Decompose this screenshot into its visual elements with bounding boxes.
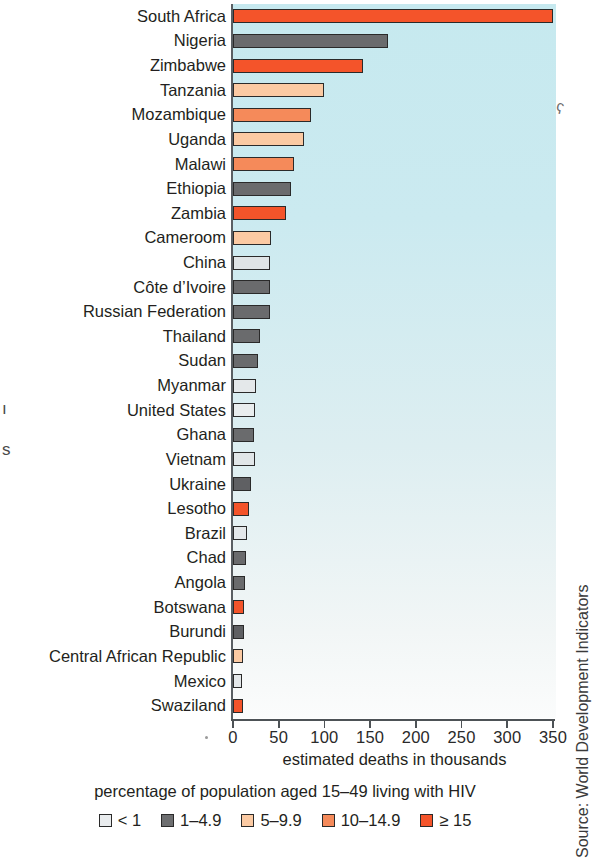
hiv-deaths-bar-chart: 050100150200250300350 South AfricaNigeri…	[0, 0, 616, 862]
bar-row: Malawi	[0, 152, 616, 177]
country-label: Malawi	[0, 156, 226, 173]
legend-item: ≥ 15	[420, 811, 471, 830]
bar	[233, 576, 245, 590]
bar	[233, 502, 249, 516]
x-tick	[324, 721, 326, 728]
legend-swatch	[241, 814, 254, 827]
country-label: Ukraine	[0, 476, 226, 493]
bar-row: Vietnam	[0, 447, 616, 472]
bar-row: Zimbabwe	[0, 53, 616, 78]
x-tick-label: 150	[345, 728, 395, 747]
page-edge-fragment-1: ı	[2, 399, 7, 419]
x-tick	[552, 721, 554, 728]
country-label: Thailand	[0, 328, 226, 345]
bar-row: Burundi	[0, 620, 616, 645]
source-note: Source: World Development Indicators	[592, 438, 614, 858]
x-tick-label: 350	[528, 728, 578, 747]
bar	[233, 649, 243, 663]
bar	[233, 280, 270, 294]
bar-row: Ghana	[0, 423, 616, 448]
country-label: Central African Republic	[0, 648, 226, 665]
source-text: Source: World Development Indicators	[574, 584, 592, 858]
bar	[233, 132, 304, 146]
bar-row: Mozambique	[0, 102, 616, 127]
bar-row: Russian Federation	[0, 299, 616, 324]
legend: percentage of population aged 15–49 livi…	[0, 782, 570, 830]
x-tick	[506, 721, 508, 728]
bar-row: Lesotho	[0, 496, 616, 521]
bar	[233, 59, 363, 73]
bar-row: Chad	[0, 546, 616, 571]
bar	[233, 526, 247, 540]
bar	[233, 699, 243, 713]
bar	[233, 256, 270, 270]
country-label: Russian Federation	[0, 303, 226, 320]
country-label: United States	[0, 402, 226, 419]
bar-row: Cameroom	[0, 226, 616, 251]
legend-item: 5–9.9	[241, 811, 301, 830]
legend-swatch	[420, 814, 433, 827]
legend-label: 5–9.9	[260, 811, 301, 830]
country-label: Botswana	[0, 599, 226, 616]
bar-row: Myanmar	[0, 373, 616, 398]
x-tick	[415, 721, 417, 728]
bar-row: Angola	[0, 570, 616, 595]
bar	[233, 600, 244, 614]
bar-row: Central African Republic	[0, 644, 616, 669]
country-label: Cameroom	[0, 229, 226, 246]
bar-row: Ukraine	[0, 472, 616, 497]
country-label: Zambia	[0, 205, 226, 222]
legend-label: 10–14.9	[341, 811, 401, 830]
country-label: Angola	[0, 574, 226, 591]
bar-row: Mexico	[0, 669, 616, 694]
legend-title: percentage of population aged 15–49 livi…	[0, 782, 570, 801]
bar-row: Botswana	[0, 595, 616, 620]
bar	[233, 551, 246, 565]
bar-row: United States	[0, 398, 616, 423]
country-label: Zimbabwe	[0, 57, 226, 74]
bar-row: Tanzania	[0, 78, 616, 103]
x-tick-label: 0	[208, 728, 258, 747]
legend-swatch	[161, 814, 174, 827]
bar-rows: South AfricaNigeriaZimbabweTanzaniaMozam…	[0, 4, 616, 718]
legend-item: 1–4.9	[161, 811, 221, 830]
country-label: Nigeria	[0, 32, 226, 49]
page-edge-fragment-2: s	[2, 440, 11, 460]
bar	[233, 403, 255, 417]
bar	[233, 428, 254, 442]
legend-label: ≥ 15	[439, 811, 471, 830]
country-label: Uganda	[0, 131, 226, 148]
country-label: Swaziland	[0, 697, 226, 714]
bar-row: Uganda	[0, 127, 616, 152]
country-label: China	[0, 254, 226, 271]
country-label: Côte d’Ivoire	[0, 279, 226, 296]
bar	[233, 379, 256, 393]
bar	[233, 83, 324, 97]
country-label: Ghana	[0, 426, 226, 443]
country-label: Ethiopia	[0, 180, 226, 197]
country-label: Tanzania	[0, 82, 226, 99]
legend-items: < 11–4.95–9.910–14.9≥ 15	[0, 811, 570, 830]
bar-row: Côte d’Ivoire	[0, 275, 616, 300]
legend-item: < 1	[99, 811, 141, 830]
bar-row: Nigeria	[0, 29, 616, 54]
bar-row: Sudan	[0, 349, 616, 374]
x-tick	[461, 721, 463, 728]
bar	[233, 625, 244, 639]
country-label: South Africa	[0, 8, 226, 25]
country-label: Burundi	[0, 623, 226, 640]
bar-row: Swaziland	[0, 693, 616, 718]
legend-label: 1–4.9	[180, 811, 221, 830]
bar	[233, 9, 553, 23]
bar-row: Ethiopia	[0, 176, 616, 201]
legend-swatch	[322, 814, 335, 827]
bar	[233, 477, 251, 491]
legend-label: < 1	[118, 811, 141, 830]
bar-row: South Africa	[0, 4, 616, 29]
stray-speck	[205, 736, 208, 739]
country-label: Myanmar	[0, 377, 226, 394]
x-tick-label: 300	[482, 728, 532, 747]
country-label: Chad	[0, 549, 226, 566]
bar	[233, 157, 294, 171]
country-label: Sudan	[0, 352, 226, 369]
